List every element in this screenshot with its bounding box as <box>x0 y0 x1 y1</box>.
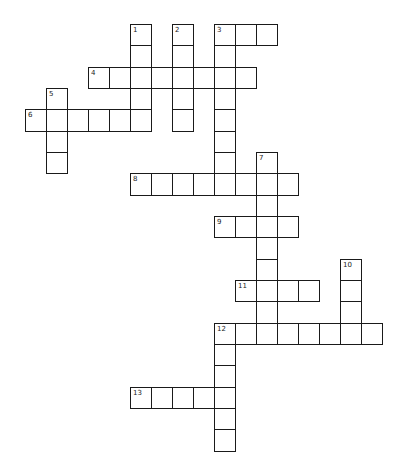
crossword-cell[interactable]: 6 <box>25 109 47 131</box>
crossword-cell[interactable]: 9 <box>214 216 236 238</box>
crossword-cell[interactable] <box>256 259 278 281</box>
clue-number: 10 <box>343 261 352 269</box>
crossword-cell[interactable] <box>130 45 152 67</box>
crossword-cell[interactable] <box>46 152 68 174</box>
crossword-cell[interactable] <box>256 237 278 259</box>
crossword-cell[interactable]: 5 <box>46 88 68 110</box>
crossword-cell[interactable] <box>214 365 236 387</box>
crossword-cell[interactable] <box>235 216 257 238</box>
crossword-cell[interactable] <box>151 173 173 195</box>
crossword-cell[interactable] <box>361 323 383 345</box>
crossword-cell[interactable]: 12 <box>214 323 236 345</box>
crossword-cell[interactable] <box>172 109 194 131</box>
crossword-cell[interactable] <box>256 24 278 46</box>
crossword-cell[interactable] <box>214 344 236 366</box>
crossword-cell[interactable] <box>235 24 257 46</box>
crossword-cell[interactable] <box>172 45 194 67</box>
crossword-cell[interactable] <box>235 67 257 89</box>
clue-number: 13 <box>133 389 142 397</box>
crossword-cell[interactable] <box>67 109 89 131</box>
crossword-cell[interactable] <box>340 301 362 323</box>
crossword-cell[interactable]: 3 <box>214 24 236 46</box>
crossword-cell[interactable] <box>193 387 215 409</box>
crossword-cell[interactable] <box>109 67 131 89</box>
crossword-cell[interactable] <box>214 387 236 409</box>
crossword-cell[interactable]: 13 <box>130 387 152 409</box>
crossword-cell[interactable] <box>214 88 236 110</box>
crossword-cell[interactable] <box>193 67 215 89</box>
crossword-cell[interactable] <box>193 173 215 195</box>
clue-number: 4 <box>91 69 95 77</box>
clue-number: 3 <box>217 26 221 34</box>
crossword-cell[interactable] <box>46 131 68 153</box>
crossword-cell[interactable] <box>172 67 194 89</box>
crossword-cell[interactable] <box>172 173 194 195</box>
crossword-cell[interactable] <box>172 387 194 409</box>
crossword-cell[interactable] <box>298 323 320 345</box>
crossword-cell[interactable] <box>88 109 110 131</box>
crossword-cell[interactable] <box>256 301 278 323</box>
crossword-cell[interactable] <box>298 280 320 302</box>
crossword-cell[interactable] <box>277 216 299 238</box>
clue-number: 6 <box>28 111 32 119</box>
clue-number: 8 <box>133 175 137 183</box>
crossword-cell[interactable] <box>340 280 362 302</box>
crossword-cell[interactable] <box>256 280 278 302</box>
crossword-cell[interactable] <box>214 173 236 195</box>
crossword-cell[interactable] <box>235 173 257 195</box>
clue-number: 2 <box>175 26 179 34</box>
crossword-cell[interactable] <box>214 429 236 451</box>
crossword-cell[interactable] <box>214 67 236 89</box>
crossword-cell[interactable] <box>319 323 341 345</box>
crossword-cell[interactable]: 8 <box>130 173 152 195</box>
crossword-cell[interactable] <box>256 216 278 238</box>
crossword-cell[interactable] <box>214 152 236 174</box>
crossword-cell[interactable] <box>151 387 173 409</box>
clue-number: 12 <box>217 325 226 333</box>
clue-number: 7 <box>259 154 263 162</box>
clue-number: 11 <box>238 282 247 290</box>
crossword-cell[interactable]: 7 <box>256 152 278 174</box>
crossword-cell[interactable] <box>46 109 68 131</box>
crossword-cell[interactable] <box>172 88 194 110</box>
crossword-cell[interactable] <box>151 67 173 89</box>
crossword-cell[interactable] <box>214 109 236 131</box>
crossword-cell[interactable]: 10 <box>340 259 362 281</box>
crossword-cell[interactable]: 4 <box>88 67 110 89</box>
crossword-cell[interactable] <box>214 131 236 153</box>
clue-number: 5 <box>49 90 53 98</box>
crossword-cell[interactable] <box>130 67 152 89</box>
crossword-cell[interactable] <box>109 109 131 131</box>
crossword-cell[interactable] <box>235 323 257 345</box>
crossword-cell[interactable] <box>214 45 236 67</box>
crossword-cell[interactable] <box>340 323 362 345</box>
crossword-cell[interactable]: 1 <box>130 24 152 46</box>
crossword-cell[interactable] <box>256 195 278 217</box>
crossword-cell[interactable] <box>256 323 278 345</box>
crossword-cell[interactable] <box>277 280 299 302</box>
clue-number: 9 <box>217 218 221 226</box>
crossword-cell[interactable] <box>130 109 152 131</box>
crossword-cell[interactable]: 2 <box>172 24 194 46</box>
crossword-cell[interactable]: 11 <box>235 280 257 302</box>
crossword-cell[interactable] <box>256 173 278 195</box>
clue-number: 1 <box>133 26 137 34</box>
crossword-grid: 12345678910111213 <box>0 0 399 469</box>
crossword-cell[interactable] <box>214 408 236 430</box>
crossword-cell[interactable] <box>130 88 152 110</box>
crossword-cell[interactable] <box>277 323 299 345</box>
crossword-cell[interactable] <box>277 173 299 195</box>
